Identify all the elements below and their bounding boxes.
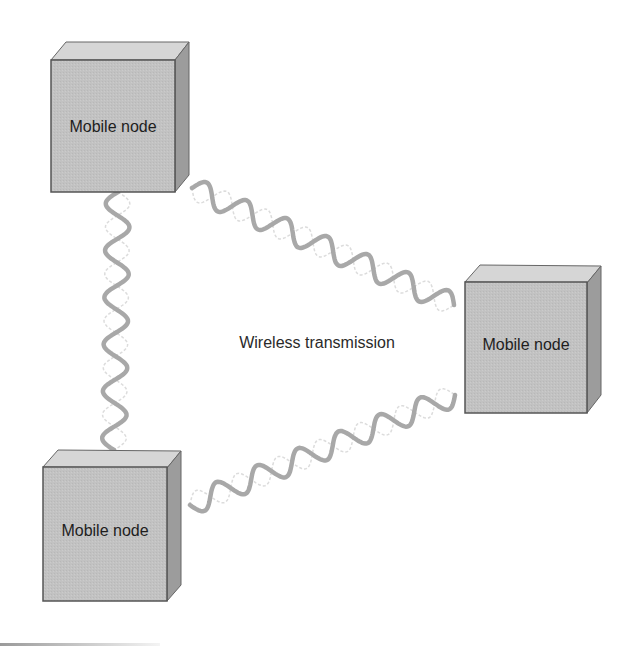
node-label: Mobile node [69, 118, 156, 135]
node-top-face [51, 42, 189, 60]
node-label: Mobile node [61, 522, 148, 539]
mobile-node-right: Mobile node [465, 265, 601, 413]
wireless-network-diagram: Mobile node Mobile node Mobile node Wire… [0, 0, 641, 648]
node-side-face [587, 266, 601, 413]
wireless-link-top [192, 182, 454, 311]
wireless-link-bottom [190, 389, 455, 512]
node-label: Mobile node [482, 336, 569, 353]
node-top-face [43, 450, 181, 468]
wireless-transmission-caption: Wireless transmission [239, 334, 395, 351]
wave-path [190, 395, 455, 511]
mobile-node-top-left: Mobile node [51, 42, 189, 192]
mobile-node-bottom-left: Mobile node [43, 450, 181, 601]
bottom-divider [0, 643, 160, 646]
wireless-link-left [102, 192, 130, 450]
node-side-face [167, 451, 181, 601]
wave-path [192, 182, 454, 305]
node-side-face [175, 42, 189, 192]
node-top-face [465, 265, 601, 283]
